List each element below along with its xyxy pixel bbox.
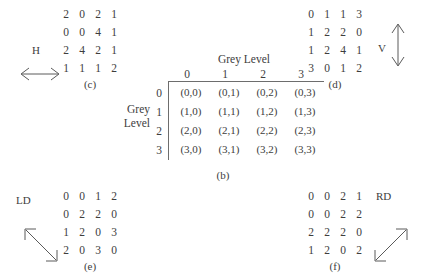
matrix-cell: 1	[351, 42, 367, 58]
matrix-cell: 0	[303, 6, 319, 22]
panel-caption-b: (b)	[126, 168, 320, 182]
matrix-cell: 2	[335, 206, 351, 222]
matrix-cell: 0	[58, 188, 74, 204]
matrix-row: 1 2 0 3	[58, 224, 122, 240]
double-arrow-vertical-icon	[390, 20, 406, 70]
direction-label-v: V	[378, 42, 386, 54]
double-arrow-diagonal-right-icon	[370, 224, 412, 266]
direction-label-ld: LD	[16, 194, 31, 206]
grid-cell: (3,1)	[210, 140, 248, 159]
matrix-row: 0 2 2 0	[58, 206, 122, 222]
panel-caption-f: (f)	[303, 259, 367, 273]
matrix-cell: 0	[74, 188, 90, 204]
matrix-row: 2 0 2 1	[58, 6, 122, 22]
matrix-cell: 0	[351, 224, 367, 240]
panel-c: 2 0 2 1 0 0 4 1 2 4 2 1 1 1 1 2 (c)	[58, 6, 122, 91]
grid-cell: (1,0)	[172, 102, 210, 121]
matrix-cell: 2	[90, 42, 106, 58]
matrix-cell: 1	[319, 6, 335, 22]
matrix-cell: 0	[106, 242, 122, 258]
column-label: 0	[168, 67, 206, 82]
matrix-cell: 0	[74, 24, 90, 40]
column-label-row: 0 1 2 3	[168, 67, 324, 82]
matrix-cell: 1	[303, 24, 319, 40]
matrix-cell: 1	[335, 6, 351, 22]
column-label: 3	[282, 67, 320, 82]
matrix-cell: 0	[319, 206, 335, 222]
grid-cell: (3,2)	[248, 140, 286, 159]
matrix-cell: 2	[335, 188, 351, 204]
matrix-cell: 0	[106, 206, 122, 222]
grid-cell: (3,3)	[286, 140, 324, 159]
grid-cell: (0,3)	[286, 83, 324, 102]
panel-f: 0 0 2 1 0 0 2 2 2 2 2 0 1 2 0 2 (f)	[303, 188, 367, 273]
matrix-cell: 3	[106, 224, 122, 240]
matrix-row: 2 4 2 1	[58, 42, 122, 58]
direction-label-h: H	[32, 44, 40, 56]
matrix-row: 0 0 4 1	[58, 24, 122, 40]
row-label: 3	[150, 141, 168, 160]
matrix-row: 0 1 1 3	[303, 6, 367, 22]
matrix-cell: 4	[90, 24, 106, 40]
grid-cell: (2,3)	[286, 121, 324, 140]
matrix-cell: 2	[335, 24, 351, 40]
matrix-cell: 0	[303, 188, 319, 204]
matrix-cell: 2	[319, 242, 335, 258]
matrix-cell: 1	[90, 60, 106, 76]
panel-caption-e: (e)	[58, 259, 122, 273]
matrix-cell: 0	[58, 24, 74, 40]
matrix-cell: 2	[58, 6, 74, 22]
matrix-cell: 2	[319, 224, 335, 240]
table-row: (0,0) (0,1) (0,2) (0,3)	[172, 83, 324, 102]
matrix-cell: 0	[335, 242, 351, 258]
matrix-cell: 1	[106, 42, 122, 58]
matrix-cell: 2	[351, 242, 367, 258]
row-label: 0	[150, 84, 168, 103]
matrix-cell: 2	[74, 224, 90, 240]
matrix-cell: 4	[335, 42, 351, 58]
double-arrow-diagonal-left-icon	[20, 224, 62, 266]
matrix-row: 1 2 2 0	[303, 24, 367, 40]
grid-cell: (3,0)	[172, 140, 210, 159]
row-label: 1	[150, 103, 168, 122]
matrix-cell: 1	[351, 188, 367, 204]
coordinate-grid: (0,0) (0,1) (0,2) (0,3) (1,0) (1,1) (1,2…	[168, 81, 324, 160]
grid-cell: (0,0)	[172, 83, 210, 102]
grid-cell: (1,1)	[210, 102, 248, 121]
table-row: (2,0) (2,1) (2,2) (2,3)	[172, 121, 324, 140]
matrix-cell: 0	[74, 242, 90, 258]
row-label: 2	[150, 122, 168, 141]
matrix-cell: 0	[74, 6, 90, 22]
matrix-cell: 2	[335, 224, 351, 240]
matrix-cell: 1	[90, 188, 106, 204]
row-header-line1: Grey	[127, 103, 150, 116]
grid-cell: (0,1)	[210, 83, 248, 102]
row-header-line2: Level	[124, 117, 150, 130]
matrix-cell: 2	[303, 224, 319, 240]
row-label-column: 0 1 2 3	[150, 84, 168, 160]
matrix-cell: 1	[74, 60, 90, 76]
matrix-cell: 1	[335, 60, 351, 76]
matrix-cell: 2	[74, 206, 90, 222]
matrix-cell: 4	[74, 42, 90, 58]
matrix-row: 0 0 1 2	[58, 188, 122, 204]
matrix-cell: 3	[90, 242, 106, 258]
matrix-cell: 2	[90, 206, 106, 222]
grid-cell: (1,3)	[286, 102, 324, 121]
column-header-title: Grey Level	[168, 52, 320, 66]
matrix-cell: 1	[106, 24, 122, 40]
panel-e: 0 0 1 2 0 2 2 0 1 2 0 3 2 0 3 0 (e)	[58, 188, 122, 273]
table-body: Grey Level 0 1 2 3 (0,0) (0,1) (0,2) (0,…	[126, 84, 324, 160]
grid-cell: (0,2)	[248, 83, 286, 102]
matrix-cell: 2	[90, 6, 106, 22]
matrix-row: 1 2 0 2	[303, 242, 367, 258]
matrix-cell: 1	[303, 242, 319, 258]
matrix-row: 0 0 2 2	[303, 206, 367, 222]
row-header-title: Grey Level	[126, 84, 150, 160]
grid-cell: (2,0)	[172, 121, 210, 140]
matrix-cell: 0	[90, 224, 106, 240]
grid-cell: (2,1)	[210, 121, 248, 140]
matrix-cell: 0	[351, 24, 367, 40]
matrix-e: 0 0 1 2 0 2 2 0 1 2 0 3 2 0 3 0	[58, 188, 122, 258]
matrix-cell: 2	[58, 42, 74, 58]
